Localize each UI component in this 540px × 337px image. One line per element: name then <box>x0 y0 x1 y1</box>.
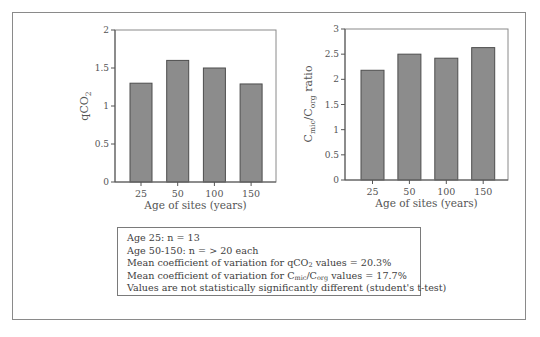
x-tick-label: 50 <box>172 188 184 199</box>
legend-line-5: Values are not statistically significant… <box>127 282 420 295</box>
x-tick-label: 100 <box>437 186 455 197</box>
y-axis-label: qCO2 <box>78 91 93 120</box>
x-axis-label: Age of sites (years) <box>374 197 477 209</box>
x-tick-label: 50 <box>403 186 415 197</box>
bar-25 <box>130 83 152 182</box>
y-tick-label: 1 <box>333 125 339 135</box>
legend-line-2: Age 50-150: n = > 20 each <box>127 245 420 258</box>
y-tick-label: 2.5 <box>325 49 340 59</box>
y-tick-label: 1.5 <box>325 100 340 110</box>
bar-50 <box>167 60 189 182</box>
bar-150 <box>240 84 262 182</box>
y-tick-label: 2 <box>103 25 109 35</box>
x-tick-label: 100 <box>205 188 223 199</box>
legend-line-1: Age 25: n = 13 <box>127 232 420 245</box>
qco2-chart: 00.511.522550100150Age of sites (years)q… <box>78 25 276 211</box>
figure-legend-box: Age 25: n = 13 Age 50-150: n = > 20 each… <box>117 227 421 296</box>
bar-50 <box>398 54 421 180</box>
y-tick-label: 3 <box>333 24 339 34</box>
y-tick-label: 1.5 <box>95 63 110 73</box>
bar-25 <box>361 70 384 180</box>
y-tick-label: 0.5 <box>95 139 110 149</box>
x-axis-label: Age of sites (years) <box>143 199 246 211</box>
y-tick-label: 0.5 <box>325 150 340 160</box>
y-tick-label: 1 <box>103 101 109 111</box>
bar-100 <box>203 68 225 182</box>
x-tick-label: 150 <box>242 188 260 199</box>
y-tick-label: 0 <box>103 177 109 187</box>
legend-line-4: Mean coefficient of variation for Cmic/C… <box>127 270 420 283</box>
bar-150 <box>472 48 495 180</box>
y-tick-label: 2 <box>333 74 339 84</box>
x-tick-label: 25 <box>366 186 378 197</box>
y-tick-label: 0 <box>333 175 339 185</box>
x-tick-label: 25 <box>135 188 147 199</box>
y-axis-label: Cmic/Corg ratio <box>302 65 317 142</box>
x-tick-label: 150 <box>474 186 492 197</box>
legend-line-3: Mean coefficient of variation for qCO2 v… <box>127 257 420 270</box>
cmic-corg-chart: 00.511.522.532550100150Age of sites (yea… <box>302 24 508 209</box>
bar-100 <box>435 58 458 180</box>
